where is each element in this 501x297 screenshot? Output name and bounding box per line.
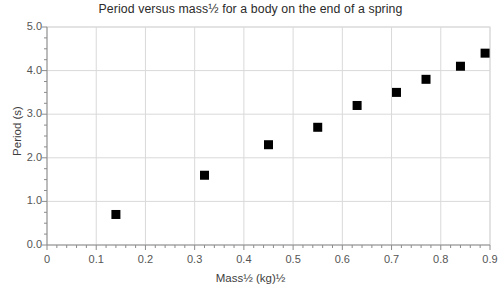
- x-axis-tick-labels: 00.10.20.30.40.50.60.70.80.9: [0, 0, 501, 297]
- x-tick-label: 0.5: [273, 253, 313, 265]
- x-tick-label: 0.7: [372, 253, 412, 265]
- x-axis-title: Mass½ (kg)½: [0, 272, 501, 284]
- x-tick-label: 0.9: [470, 253, 501, 265]
- x-tick-label: 0.6: [322, 253, 362, 265]
- chart-container: Period versus mass½ for a body on the en…: [0, 0, 501, 297]
- x-tick-label: 0.1: [76, 253, 116, 265]
- x-tick-label: 0.2: [125, 253, 165, 265]
- x-tick-label: 0: [27, 253, 67, 265]
- x-tick-label: 0.4: [224, 253, 264, 265]
- x-tick-label: 0.3: [175, 253, 215, 265]
- y-axis-title: Period (s): [11, 71, 23, 191]
- x-tick-label: 0.8: [421, 253, 461, 265]
